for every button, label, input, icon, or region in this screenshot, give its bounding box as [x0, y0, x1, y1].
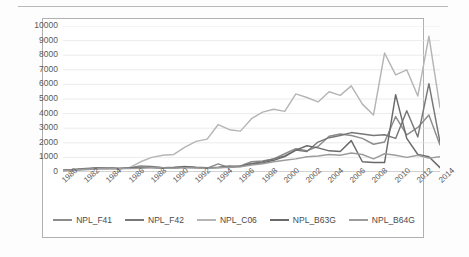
series-lines [63, 26, 440, 172]
legend-color-swatch [53, 219, 72, 221]
legend-color-swatch [270, 219, 289, 221]
y-axis-tick-label: 1000 [39, 152, 58, 161]
legend-color-swatch [197, 219, 216, 221]
x-axis-labels: 1980198219841986198819901992199419961998… [0, 172, 469, 212]
legend-label: NPL_C06 [220, 215, 257, 225]
series-line [63, 95, 440, 171]
legend-label: NPL_F41 [76, 215, 112, 225]
plot-area [63, 26, 440, 172]
y-axis-tick-label: 3000 [39, 123, 58, 132]
legend-color-swatch [349, 219, 368, 221]
legend-label: NPL_F42 [148, 215, 184, 225]
legend-label: NPL_B64G [372, 215, 415, 225]
horizontal-rule [18, 6, 448, 7]
legend-item[interactable]: NPL_B64G [349, 215, 415, 225]
legend-item[interactable]: NPL_B63G [270, 215, 336, 225]
y-axis-labels: 1000090008000700060005000400030002000100… [0, 0, 58, 190]
series-line [63, 36, 440, 170]
chart-legend: NPL_F41NPL_F42NPL_C06NPL_B63GNPL_B64G [48, 212, 420, 228]
chart-page: 1000090008000700060005000400030002000100… [0, 0, 469, 257]
y-axis-tick-label: 2000 [39, 138, 58, 147]
y-axis-tick-label: 5000 [39, 94, 58, 103]
y-axis-tick-label: 9000 [39, 36, 58, 45]
y-axis-tick-label: 4000 [39, 109, 58, 118]
y-axis-tick-label: 6000 [39, 79, 58, 88]
y-axis-tick-label: 7000 [39, 65, 58, 74]
y-axis-tick-label: 10000 [34, 21, 58, 30]
legend-item[interactable]: NPL_C06 [197, 215, 257, 225]
legend-item[interactable]: NPL_F42 [125, 215, 184, 225]
legend-color-swatch [125, 219, 144, 221]
y-axis-tick-label: 8000 [39, 50, 58, 59]
legend-item[interactable]: NPL_F41 [53, 215, 112, 225]
legend-label: NPL_B63G [293, 215, 336, 225]
